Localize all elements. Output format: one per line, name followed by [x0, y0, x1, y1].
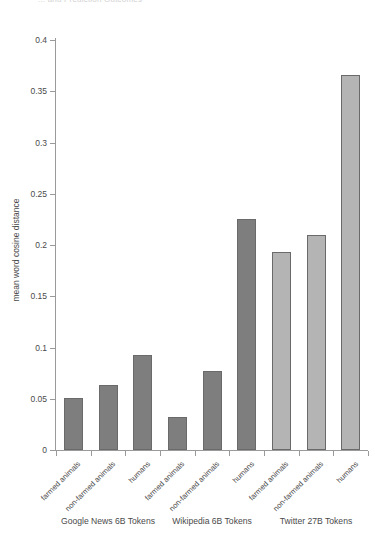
- x-axis-tick: [229, 451, 230, 456]
- y-axis-tick-label: 0.1: [35, 344, 47, 353]
- bar: [64, 398, 83, 450]
- y-axis-tick-label: 0.25: [30, 190, 47, 199]
- x-axis-tick: [368, 451, 369, 456]
- bar: [133, 355, 152, 450]
- y-axis-tick: [50, 399, 56, 400]
- bar: [99, 385, 118, 450]
- y-axis-tick: [50, 40, 56, 41]
- y-axis-tick-label: 0: [42, 446, 47, 455]
- y-axis-tick-label: 0.3: [35, 139, 47, 148]
- x-axis-tick: [333, 451, 334, 456]
- x-axis-tick: [56, 451, 57, 456]
- y-axis-tick: [50, 194, 56, 195]
- x-axis-tick: [160, 451, 161, 456]
- y-axis-tick: [50, 143, 56, 144]
- y-axis-tick: [50, 348, 56, 349]
- y-axis-title: mean word cosine distance: [11, 170, 21, 330]
- bar-chart: mean word cosine distance 00.050.10.150.…: [0, 0, 375, 534]
- group-label: Wikipedia 6B Tokens: [172, 516, 252, 526]
- y-axis-tick-label: 0.15: [30, 292, 47, 301]
- x-axis-tick: [195, 451, 196, 456]
- bar: [203, 371, 222, 450]
- bar: [237, 219, 256, 450]
- x-axis-tick: [91, 451, 92, 456]
- x-axis-tick: [299, 451, 300, 456]
- bar: [307, 235, 326, 450]
- y-axis-tick: [50, 296, 56, 297]
- bar: [341, 75, 360, 450]
- y-axis-tick-label: 0.35: [30, 87, 47, 96]
- x-axis-line: [55, 450, 368, 451]
- x-axis-tick: [125, 451, 126, 456]
- bar: [272, 252, 291, 450]
- y-axis-tick-label: 0.05: [30, 395, 47, 404]
- y-axis-tick-label: 0.2: [35, 241, 47, 250]
- y-axis-tick: [50, 245, 56, 246]
- group-label: Twitter 27B Tokens: [280, 516, 352, 526]
- y-axis-tick: [50, 91, 56, 92]
- bar: [168, 417, 187, 450]
- group-label: Google News 6B Tokens: [61, 516, 155, 526]
- y-axis-tick-label: 0.4: [35, 36, 47, 45]
- x-axis-tick: [264, 451, 265, 456]
